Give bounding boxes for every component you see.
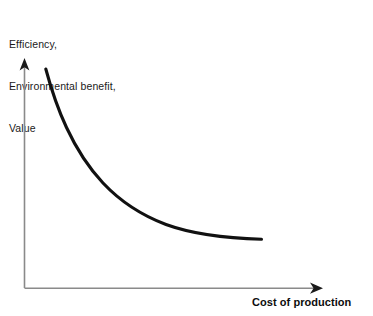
y-axis bbox=[20, 58, 30, 288]
x-axis-label: Cost of production bbox=[252, 295, 351, 309]
x-axis bbox=[25, 283, 324, 294]
plot-area bbox=[0, 0, 373, 316]
economics-tradeoff-figure: Efficiency, Environmental benefit, Value… bbox=[0, 0, 373, 316]
tradeoff-curve bbox=[46, 69, 262, 239]
